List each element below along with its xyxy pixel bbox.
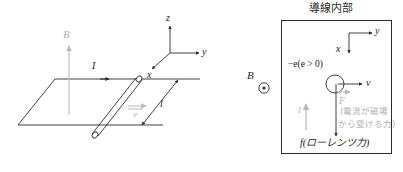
coordinate-axes-3d bbox=[152, 26, 199, 69]
field-out-of-page-icon bbox=[259, 83, 269, 93]
axis-label-y-box: y bbox=[375, 26, 379, 36]
b-field-label: B bbox=[63, 29, 70, 40]
velocity-arrow bbox=[128, 106, 146, 109]
b-field-label-box: B bbox=[247, 70, 254, 81]
sliding-rod bbox=[91, 75, 143, 140]
electron-charge-label: −e(e > 0) bbox=[288, 60, 323, 70]
velocity-label: v bbox=[133, 110, 137, 119]
force-F-label: F bbox=[339, 96, 345, 106]
physics-figure: B I l v z y x 導線内部 B y x −e(e > 0) v F I… bbox=[0, 0, 403, 172]
conductor-box-title: 導線内部 bbox=[309, 3, 353, 14]
conductor-interior-box bbox=[281, 20, 392, 154]
current-label-box: I bbox=[298, 106, 301, 115]
axis-label-z: z bbox=[166, 13, 170, 23]
force-note-line2: から受ける力) bbox=[338, 120, 395, 129]
lorentz-force-label: f(ローレンツ力) bbox=[300, 138, 369, 148]
length-label: l bbox=[160, 99, 163, 109]
axis-label-x: x bbox=[147, 70, 151, 80]
velocity-label-box: v bbox=[366, 78, 370, 88]
axis-label-x-box: x bbox=[336, 44, 340, 54]
current-label: I bbox=[92, 61, 95, 71]
axis-label-y: y bbox=[202, 47, 206, 57]
rail-plane bbox=[18, 79, 200, 125]
force-note-line1: (電流が磁場 bbox=[340, 107, 388, 116]
